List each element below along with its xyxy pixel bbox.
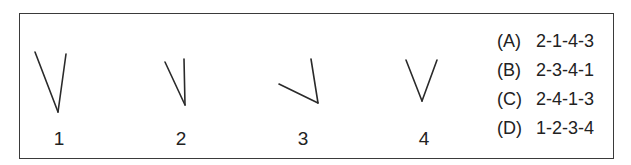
option-sequence: 1-2-3-4	[536, 118, 594, 138]
figure-1-line	[35, 52, 58, 112]
option-sequence: 2-3-4-1	[536, 60, 594, 80]
option-d[interactable]: (D)1-2-3-4	[497, 115, 594, 144]
option-c[interactable]: (C)2-4-1-3	[497, 86, 594, 115]
figure-2-line	[184, 59, 185, 105]
option-letter: (D)	[497, 115, 536, 141]
figure-label-2: 2	[166, 128, 196, 150]
option-sequence: 2-4-1-3	[536, 89, 594, 109]
answer-options: (A)2-1-4-3 (B)2-3-4-1 (C)2-4-1-3 (D)1-2-…	[497, 28, 594, 144]
option-letter: (B)	[497, 57, 536, 83]
figure-label-3: 3	[288, 128, 318, 150]
figure-1-line	[58, 54, 66, 112]
figure-3-line	[311, 59, 318, 103]
figure-4-line	[422, 60, 437, 101]
option-a[interactable]: (A)2-1-4-3	[497, 28, 594, 57]
option-b[interactable]: (B)2-3-4-1	[497, 57, 594, 86]
option-sequence: 2-1-4-3	[536, 31, 594, 51]
figure-2-line	[165, 62, 185, 105]
figure-label-1: 1	[44, 128, 74, 150]
figure-3-line	[279, 84, 318, 103]
figure-4-line	[406, 60, 422, 101]
option-letter: (A)	[497, 28, 536, 54]
option-letter: (C)	[497, 86, 536, 112]
figure-label-4: 4	[409, 128, 439, 150]
